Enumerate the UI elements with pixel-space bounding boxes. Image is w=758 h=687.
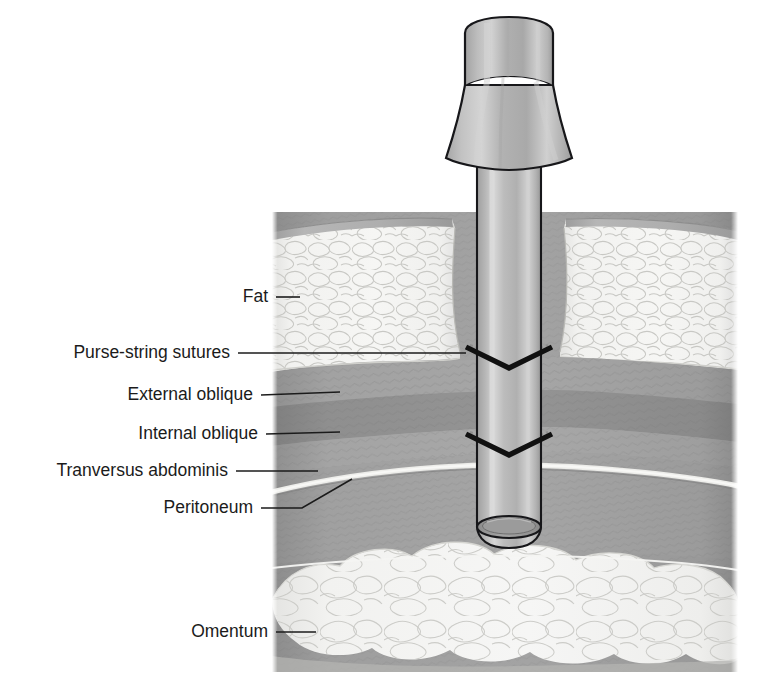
label-internal-oblique-text: Internal oblique: [138, 423, 258, 443]
label-purse-string-sutures-text: Purse-string sutures: [73, 342, 230, 362]
figure-container: Fat Purse-string sutures External obliqu…: [0, 0, 758, 687]
label-peritoneum-text: Peritoneum: [164, 497, 254, 517]
trocar-hub: [446, 76, 572, 170]
label-fat-text: Fat: [243, 286, 268, 306]
label-tranversus-abdominis-text: Tranversus abdominis: [56, 460, 228, 480]
trocar-shaft: [477, 155, 541, 548]
label-external-oblique-text: External oblique: [128, 384, 254, 404]
trocar-tip: [477, 516, 541, 538]
trocar-cap: [465, 17, 553, 85]
medical-illustration: Fat Purse-string sutures External obliqu…: [0, 0, 758, 687]
label-omentum-text: Omentum: [191, 621, 268, 641]
